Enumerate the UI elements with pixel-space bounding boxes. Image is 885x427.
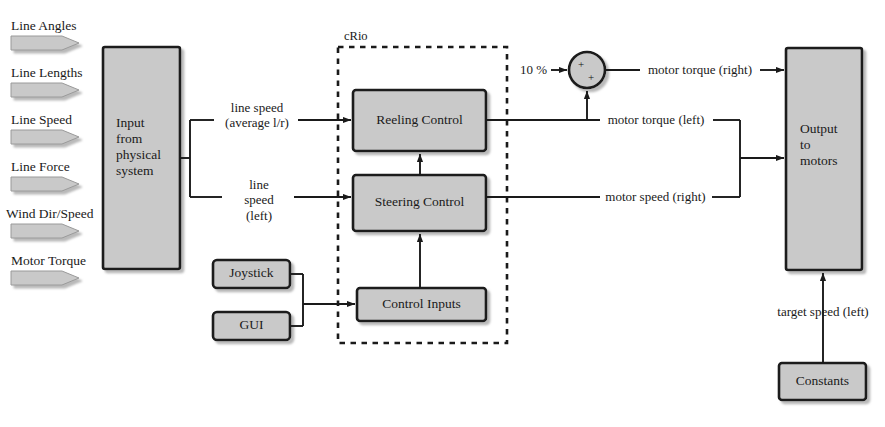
input-arrow-line-speed	[11, 130, 79, 144]
summing-junction-shape	[569, 52, 605, 88]
crio-container-label: cRio	[344, 29, 368, 44]
input-label-wind-dir-speed: Wind Dir/Speed	[6, 206, 94, 222]
input-label-line-lengths: Line Lengths	[11, 65, 83, 81]
summing-junction-plus-left: +	[578, 58, 584, 70]
input-label-line-angles: Line Angles	[11, 18, 77, 34]
signal-label-line-speed-average: line speed (average l/r)	[216, 100, 298, 131]
output-block-line-3: motors	[800, 153, 838, 169]
signal-label-line-speed-left: line speed (left)	[224, 177, 294, 223]
steering-control-label: Steering Control	[353, 194, 486, 210]
control-inputs-label: Control Inputs	[357, 296, 486, 312]
input-block-label: Input from physical system	[116, 115, 161, 179]
input-label-line-force: Line Force	[11, 159, 70, 175]
input-arrow-motor-torque	[11, 271, 79, 285]
signal-label-motor-torque-right: motor torque (right)	[640, 62, 760, 77]
input-block-line-2: from	[116, 131, 161, 147]
signal-line-speed-left-line-3: (left)	[224, 208, 294, 223]
output-block-label: Output to motors	[800, 121, 838, 169]
output-block-line-1: Output	[800, 121, 838, 137]
input-label-line-speed: Line Speed	[11, 112, 72, 128]
gain-label-10-percent: 10 %	[520, 62, 547, 77]
signal-label-motor-speed-right: motor speed (right)	[598, 189, 713, 204]
input-block-line-1: Input	[116, 115, 161, 131]
signal-label-motor-torque-left: motor torque (left)	[598, 112, 714, 127]
gui-label: GUI	[213, 317, 290, 333]
signal-label-target-speed-left: target speed (left)	[762, 304, 884, 319]
signal-line-speed-average-line-1: line speed	[216, 100, 298, 115]
output-block-line-2: to	[800, 137, 838, 153]
input-block-line-3: physical	[116, 147, 161, 163]
input-label-motor-torque: Motor Torque	[11, 253, 86, 269]
joystick-label: Joystick	[213, 265, 290, 281]
input-block-line-4: system	[116, 163, 161, 179]
input-arrow-line-force	[11, 177, 79, 191]
block-diagram: Line Angles Line Lengths Line Speed Line…	[0, 0, 885, 427]
signal-line-speed-left-line-1: line	[224, 177, 294, 192]
input-arrow-line-angles	[11, 36, 79, 50]
input-arrow-wind-dir-speed	[11, 224, 79, 238]
signal-line-speed-average-line-2: (average l/r)	[216, 115, 298, 130]
constants-label: Constants	[779, 373, 866, 389]
input-arrow-line-lengths	[11, 83, 79, 97]
signal-line-speed-left-line-2: speed	[224, 192, 294, 207]
reeling-control-label: Reeling Control	[353, 112, 486, 128]
summing-junction-plus-bottom: +	[588, 71, 594, 83]
